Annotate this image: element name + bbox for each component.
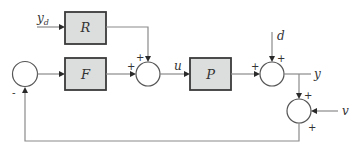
control-sum-sign-top: +	[136, 52, 144, 63]
arrow-into-noise-sum-right-icon	[311, 108, 317, 114]
block-p-label: P	[205, 67, 215, 82]
block-r-label: R	[80, 20, 91, 35]
noise-sum-sign-right: +	[308, 122, 316, 133]
disturbance-label: d	[277, 29, 285, 43]
block-f-label: F	[80, 67, 91, 82]
feedback-wire	[25, 89, 299, 141]
control-signal-label: u	[174, 59, 182, 73]
arrow-into-disturbance-sum-top-icon	[269, 56, 275, 62]
arrow-into-control-sum-top-icon	[145, 56, 151, 62]
noise-label: v	[342, 104, 349, 118]
noise-sum-junction	[287, 99, 311, 123]
control-sum-sign-left: +	[127, 61, 135, 72]
arrow-into-noise-sum-top-icon	[296, 93, 302, 99]
block-diagram: yd R + - F + u P + d + y + v +	[0, 0, 360, 151]
feedback-sum-sign-minus: -	[12, 87, 16, 98]
reference-label: yd	[36, 11, 49, 27]
noise-sum-sign-top: +	[304, 90, 312, 101]
output-label: y	[313, 67, 321, 81]
disturbance-sum-sign-top: +	[277, 53, 285, 64]
arrow-into-r-icon	[59, 24, 65, 30]
disturbance-sum-sign-left: +	[251, 61, 259, 72]
arrow-into-feedback-sum-bottom-icon	[22, 87, 28, 93]
feedback-sum-junction	[13, 62, 38, 87]
arrow-into-f-icon	[59, 71, 65, 77]
disturbance-sum-junction	[260, 62, 284, 86]
control-sum-junction	[136, 62, 160, 86]
